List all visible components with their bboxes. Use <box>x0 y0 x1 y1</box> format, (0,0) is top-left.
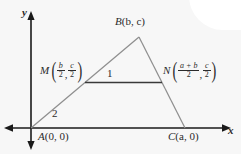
n-y-numerator: c <box>204 62 210 70</box>
n-x-denominator: 2 <box>178 70 199 79</box>
vertex-b-coords: (b, c) <box>122 15 145 27</box>
x-axis-label: x <box>228 125 234 136</box>
m-x-denominator: 2 <box>57 70 65 79</box>
n-x-numerator: a + b <box>179 62 198 70</box>
y-axis <box>27 11 34 150</box>
midpoint-m-y-fraction: c 2 <box>69 62 75 80</box>
angle-mark-2: 2 <box>52 108 58 119</box>
y-axis-label: y <box>22 7 27 18</box>
midpoint-label-n: N ( a + b 2 , c 2 ) <box>163 61 218 81</box>
vertex-c-coords: (a, 0) <box>175 130 198 142</box>
midpoint-label-m: M ( b 2 , c 2 ) <box>40 61 83 81</box>
vertex-a-coords: (0, 0) <box>45 130 69 142</box>
angle-mark-1: 1 <box>107 68 113 79</box>
midpoint-m-x-fraction: b 2 <box>58 62 64 80</box>
n-y-denominator: 2 <box>203 70 211 79</box>
geometry-figure: y x B(b, c) A(0, 0) C(a, 0) 1 2 M ( b 2 … <box>0 0 241 154</box>
m-y-denominator: 2 <box>68 70 76 79</box>
midpoint-m-letter: M <box>40 65 49 76</box>
m-x-numerator: b <box>58 62 64 70</box>
m-y-numerator: c <box>69 62 75 70</box>
left-paren-n: ( <box>172 61 177 81</box>
vertex-label-b: B(b, c) <box>115 16 145 27</box>
right-paren-m: ) <box>77 61 82 81</box>
right-paren-n: ) <box>212 61 217 81</box>
vertex-b-letter: B <box>115 15 122 27</box>
midpoint-n-x-fraction: a + b 2 <box>179 62 198 80</box>
midpoint-n-y-fraction: c 2 <box>204 62 210 80</box>
left-paren-m: ( <box>51 61 56 81</box>
midpoint-n-letter: N <box>163 65 170 76</box>
vertex-label-a: A(0, 0) <box>38 131 69 142</box>
vertex-label-c: C(a, 0) <box>168 131 199 142</box>
vertex-a-letter: A <box>38 130 45 142</box>
